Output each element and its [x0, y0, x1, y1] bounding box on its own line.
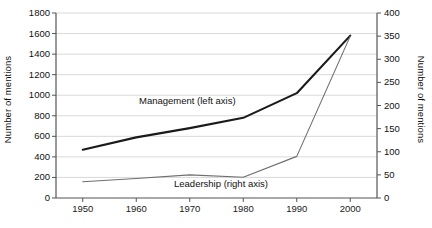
chart-container: Number of mentions Number of mentions 02…: [0, 0, 432, 228]
series-lines: [83, 36, 351, 182]
series-label-leadership: Leadership (right axis): [174, 178, 268, 189]
plot-area: [0, 0, 432, 228]
series-label-management: Management (left axis): [139, 95, 236, 106]
axis-ticks: [52, 13, 381, 202]
